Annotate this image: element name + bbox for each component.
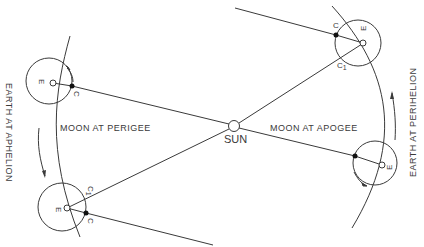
orbit-arrow-left	[38, 128, 46, 178]
earth-label: E	[359, 26, 368, 31]
moon-c-label: C	[72, 91, 81, 97]
sun-label: SUN	[224, 133, 247, 145]
earth-perihelion-label: EARTH AT PERIHELION	[408, 67, 418, 177]
moon-c-label: C	[333, 21, 339, 30]
earth-aphelion-bottom: E C C1	[38, 183, 95, 231]
earth-label: E	[385, 165, 394, 170]
earth-perihelion-top: C E C1	[333, 20, 381, 71]
moon-perigee-label: MOON AT PERIGEE	[60, 123, 151, 133]
moon-icon	[84, 211, 89, 216]
earth-orbit-right	[332, 6, 385, 228]
moon-c-label: C	[86, 218, 95, 224]
moon-orbit	[26, 58, 72, 104]
earth-aphelion-label: EARTH AT APHELION	[4, 83, 14, 182]
earth-aphelion-top: E C	[26, 58, 81, 104]
moon-apogee-label: MOON AT APOGEE	[270, 123, 358, 133]
moon-icon	[353, 154, 358, 159]
earth-label: E	[37, 79, 46, 84]
earth-icon	[360, 40, 366, 46]
earth-icon	[50, 80, 56, 86]
orbit-arrow-right	[390, 91, 395, 140]
moon-c1-label: C1	[85, 186, 95, 196]
earth-icon	[64, 205, 70, 211]
earth-label: E	[54, 207, 63, 212]
sun-icon	[229, 121, 240, 132]
moon-icon	[70, 84, 75, 89]
moon-icon	[334, 33, 339, 38]
diagram-canvas: SUN E C C E C1 E E C C1 MOON AT PERIGE	[0, 0, 424, 247]
moon-orbit	[335, 20, 381, 66]
